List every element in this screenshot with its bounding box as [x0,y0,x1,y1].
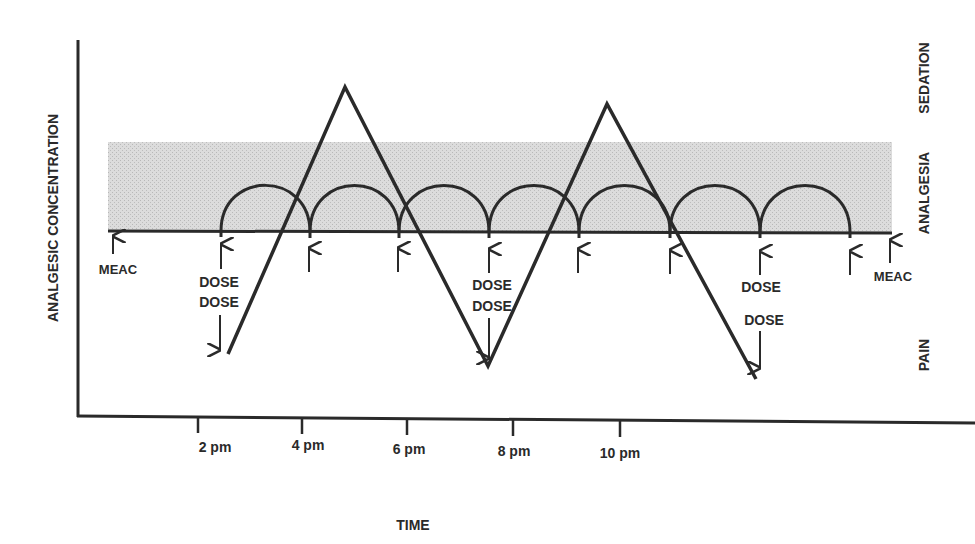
dose-label-2pm-upper: DOSE [199,274,239,290]
meac-label-right: MEAC [874,269,913,284]
x-axis [77,416,975,423]
analgesia-band [108,142,892,232]
meac-line [108,231,892,233]
analgesic-concentration-diagram: 2 pm 4 pm 6 pm 8 pm 10 pm TIME ANALGESIC… [0,0,975,544]
tick-label-4pm: 4 pm [292,437,325,453]
zone-label-sedation: SEDATION [916,42,932,113]
dose-label-10pm-upper: DOSE [741,279,781,295]
meac-label-left: MEAC [99,262,138,277]
tick-label-10pm: 10 pm [600,445,640,461]
dose-label-6pm-lower: DOSE [472,298,512,314]
dose-up-arrows [113,236,890,275]
zone-label-analgesia: ANALGESIA [916,152,932,234]
dose-label-10pm-lower: DOSE [744,312,784,328]
tick-label-2pm: 2 pm [199,439,232,455]
y-axis-title: ANALGESIC CONCENTRATION [45,114,61,322]
zone-label-pain: PAIN [916,339,932,371]
tick-label-8pm: 8 pm [498,443,531,459]
tick-label-6pm: 6 pm [393,441,426,457]
dose-label-2pm-lower: DOSE [199,294,239,310]
dose-label-6pm-upper: DOSE [472,277,512,293]
x-axis-title: TIME [396,517,429,533]
